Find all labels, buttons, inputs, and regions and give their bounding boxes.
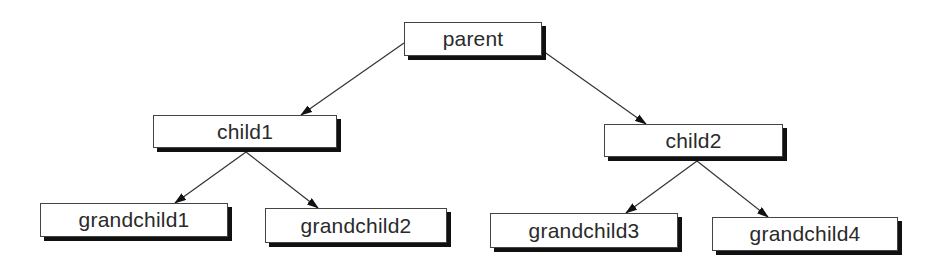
- node-grandchild1: grandchild1: [40, 203, 228, 237]
- node-label: child2: [665, 129, 721, 153]
- edge-child2-to-grandchild3: [626, 161, 697, 213]
- tree-diagram: parent child1 child2 grandchild1 grandch…: [0, 0, 946, 268]
- node-label: parent: [443, 27, 504, 51]
- edge-parent-to-child1: [301, 43, 404, 115]
- node-label: grandchild3: [529, 219, 640, 243]
- edge-child2-to-grandchild4: [697, 161, 768, 217]
- node-parent: parent: [404, 22, 542, 56]
- node-grandchild2: grandchild2: [265, 208, 447, 243]
- node-child2: child2: [604, 124, 783, 157]
- edge-child1-to-grandchild1: [175, 152, 246, 203]
- node-grandchild4: grandchild4: [712, 217, 898, 251]
- edge-parent-to-child2: [543, 51, 646, 124]
- edge-child1-to-grandchild2: [246, 152, 318, 208]
- node-label: grandchild4: [750, 222, 861, 246]
- node-grandchild3: grandchild3: [490, 213, 678, 248]
- node-label: grandchild1: [79, 208, 190, 232]
- node-child1: child1: [153, 115, 337, 148]
- node-label: grandchild2: [301, 214, 412, 238]
- node-label: child1: [217, 120, 273, 144]
